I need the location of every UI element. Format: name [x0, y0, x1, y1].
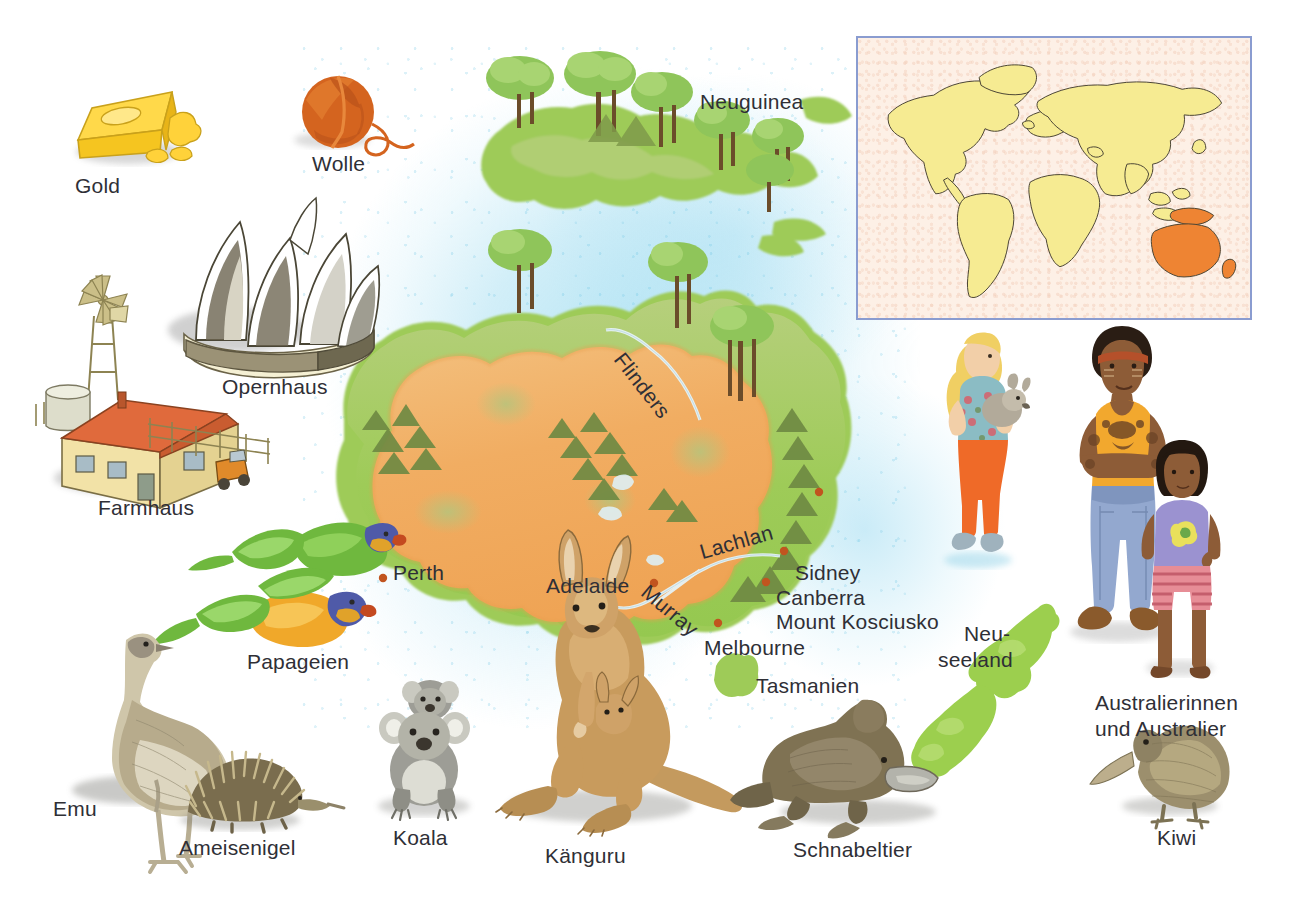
label-kiwi: Kiwi	[1157, 826, 1196, 850]
label-farmhaus: Farmhaus	[98, 496, 194, 520]
label-opernhaus: Opernhaus	[222, 375, 328, 399]
label-adelaide: Adelaide	[546, 574, 629, 598]
label-perth: Perth	[393, 561, 444, 585]
label-neuguinea: Neuguinea	[700, 90, 803, 114]
world-map-inset	[856, 36, 1252, 320]
illustrated-map-page: Gold Wolle Opernhaus Farmhaus Papageien …	[0, 0, 1294, 903]
label-kaenguru: Känguru	[545, 844, 626, 868]
label-mount-kosciusko: Mount Kosciusko	[776, 610, 939, 634]
label-emu: Emu	[53, 797, 97, 821]
label-gold: Gold	[75, 174, 120, 198]
label-australierinnen: Australierinnen	[1095, 691, 1238, 715]
label-wolle: Wolle	[312, 152, 365, 176]
echidna-icon	[180, 752, 344, 832]
label-schnabeltier: Schnabeltier	[793, 838, 912, 862]
world-map-graphic	[858, 38, 1250, 318]
kiwi-bird-icon	[1090, 726, 1230, 828]
label-neuseeland-line2: seeland	[938, 648, 1013, 672]
label-ameisenigel: Ameisenigel	[179, 836, 296, 860]
ocean-texture	[300, 40, 920, 740]
label-melbourne: Melbourne	[704, 636, 805, 660]
label-tasmanien: Tasmanien	[756, 674, 859, 698]
label-und-australier: und Australier	[1095, 717, 1226, 741]
label-neuseeland-line1: Neu-	[964, 622, 1010, 646]
label-sidney: Sidney	[795, 561, 860, 585]
gold-bar-icon	[76, 92, 201, 164]
label-koala: Koala	[393, 826, 448, 850]
aboriginal-man-figure	[1070, 326, 1166, 642]
label-papageien: Papageien	[247, 650, 349, 674]
aboriginal-girl-figure	[1142, 440, 1221, 679]
label-canberra: Canberra	[776, 586, 865, 610]
